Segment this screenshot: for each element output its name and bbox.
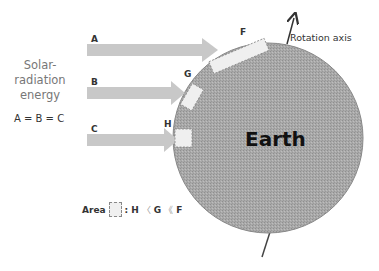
ray-c-arrow — [87, 128, 178, 152]
rotation-axis-label: Rotation axis — [290, 32, 352, 43]
ray-a-label: A — [91, 34, 98, 44]
side-label-line-2: radiation — [4, 73, 76, 88]
area-f-label: F — [240, 27, 246, 37]
ray-c-label: C — [91, 124, 98, 134]
area-g-label: G — [184, 69, 191, 79]
ray-b-label: B — [91, 77, 98, 87]
equality-label: A = B = C — [14, 113, 64, 124]
solar-radiation-label: Solar- radiation energy — [4, 58, 76, 103]
legend-g: G — [154, 205, 161, 215]
rotation-axis-bottom — [262, 232, 270, 257]
ray-a-arrow — [87, 38, 218, 62]
ray-b-arrow — [87, 81, 185, 105]
area-h-label: H — [164, 119, 172, 129]
dashed-area-icon — [109, 202, 122, 217]
less-than-symbol: 〈 — [142, 203, 151, 216]
legend-f: F — [176, 205, 182, 215]
side-label-line-3: energy — [4, 88, 76, 103]
area-h — [175, 129, 192, 147]
legend-colon: : — [125, 205, 129, 215]
earth-label: Earth — [245, 127, 306, 151]
much-less-than-symbol: 《 — [164, 203, 173, 216]
legend-h: H — [131, 205, 139, 215]
area-legend: Area : H 〈 G 《 F — [82, 202, 182, 217]
legend-prefix: Area — [82, 205, 106, 215]
side-label-line-1: Solar- — [4, 58, 76, 73]
